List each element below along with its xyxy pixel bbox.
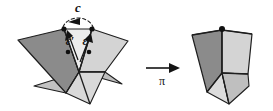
vertex-dot-epsilon-prime — [66, 50, 71, 55]
vertex-dot-right-rim — [89, 26, 94, 31]
right-light-face — [222, 30, 252, 74]
label-map-pi: π — [159, 74, 165, 88]
label-epsilon-prime: ε′ — [66, 34, 74, 48]
label-curve-c: c — [75, 0, 81, 15]
vertex-dot-left-rim — [61, 26, 66, 31]
figure-root: c ε′ ε π — [0, 0, 273, 111]
vertex-dot-apex — [219, 26, 225, 32]
vertex-dot-epsilon — [87, 50, 92, 55]
cone-folding-diagram: c ε′ ε π — [0, 0, 273, 111]
label-epsilon: ε — [83, 34, 88, 48]
